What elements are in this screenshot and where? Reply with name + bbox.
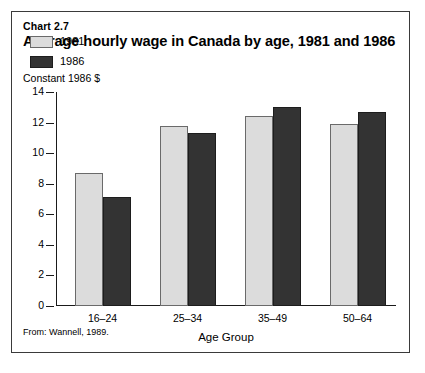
y-axis-tick: 10: [22, 153, 56, 154]
legend-label-1986: 1986: [60, 55, 84, 67]
chart-figure-frame: Chart 2.7 Average hourly wage in Canada …: [11, 11, 410, 353]
legend-label-1981: 1981: [60, 35, 84, 47]
y-axis-tick-label: 14: [32, 85, 44, 97]
legend-swatch-1986: [30, 56, 53, 68]
y-axis-tick-mark: [46, 214, 54, 215]
bar-1986-35-49: [273, 107, 301, 306]
bar-1986-25-34: [188, 133, 216, 306]
y-axis-tick-label: 12: [32, 116, 44, 128]
x-axis-category-label: 25–34: [143, 312, 233, 324]
y-axis-tick-mark: [46, 306, 54, 307]
legend-swatch-1981: [30, 36, 53, 48]
y-axis-tick: 12: [22, 123, 56, 124]
y-axis-tick-label: 4: [38, 238, 44, 250]
y-axis-tick-mark: [46, 245, 54, 246]
plot-area: 02468101214 16–2425–3435–4950–64 Age Gro…: [56, 92, 396, 306]
y-axis-units-label: Constant 1986 $: [23, 72, 100, 84]
x-axis-category-label: 16–24: [58, 312, 148, 324]
y-axis-tick: 6: [22, 214, 56, 215]
y-axis-tick-label: 10: [32, 146, 44, 158]
x-axis-category-label: 35–49: [228, 312, 318, 324]
y-axis-tick-mark: [46, 153, 54, 154]
y-axis-tick: 2: [22, 275, 56, 276]
y-axis-tick-mark: [46, 92, 54, 93]
y-axis-tick: 8: [22, 184, 56, 185]
y-axis-tick-label: 6: [38, 207, 44, 219]
y-axis-tick: 4: [22, 245, 56, 246]
y-axis-tick-mark: [46, 123, 54, 124]
chart-number: Chart 2.7: [23, 20, 69, 32]
bar-1981-16-24: [75, 173, 103, 306]
x-axis-category-label: 50–64: [313, 312, 403, 324]
y-axis-tick-mark: [46, 184, 54, 185]
bar-1986-16-24: [103, 197, 131, 306]
bar-1981-50-64: [330, 124, 358, 306]
source-note: From: Wannell, 1989.: [23, 327, 109, 337]
bar-series-group: [56, 92, 396, 306]
y-axis-tick-label: 8: [38, 177, 44, 189]
y-axis-tick: 0: [22, 306, 56, 307]
y-axis-tick-label: 2: [38, 268, 44, 280]
y-axis-tick-mark: [46, 275, 54, 276]
y-axis-tick: 14: [22, 92, 56, 93]
bar-1981-35-49: [245, 116, 273, 306]
bar-1986-50-64: [358, 112, 386, 306]
y-axis-tick-label: 0: [38, 299, 44, 311]
bar-1981-25-34: [160, 126, 188, 306]
